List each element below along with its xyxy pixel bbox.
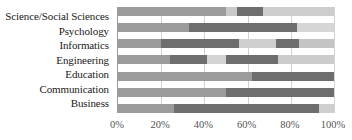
y-axis-label-business: Business: [0, 96, 113, 111]
bar-row[interactable]: [118, 88, 334, 97]
bar-row[interactable]: [118, 72, 334, 81]
y-axis-label-informatics: Informatics: [0, 38, 113, 53]
bar-segment[interactable]: [118, 55, 170, 64]
bar-segment[interactable]: [118, 7, 226, 16]
bar-segment[interactable]: [237, 7, 263, 16]
bar-segment[interactable]: [118, 72, 252, 81]
stacked-bar-chart: Science/Social Sciences Psychology Infor…: [0, 0, 352, 140]
bar-row[interactable]: [118, 7, 334, 16]
y-axis-label-psychology: Psychology: [0, 24, 113, 39]
x-axis-tick-label-100: 100%: [321, 118, 346, 131]
bar-segment[interactable]: [189, 23, 297, 32]
bar-segment[interactable]: [299, 39, 334, 48]
y-axis-label-science-social-sciences: Science/Social Sciences: [0, 9, 113, 24]
bar-segment[interactable]: [118, 23, 189, 32]
bar-row[interactable]: [118, 55, 334, 64]
bar-segment[interactable]: [276, 39, 300, 48]
bar-segment[interactable]: [226, 55, 278, 64]
bar-segment[interactable]: [226, 7, 237, 16]
bar-segment[interactable]: [161, 39, 239, 48]
y-axis-label-communication: Communication: [0, 82, 113, 97]
bar-segment[interactable]: [239, 39, 276, 48]
bar-segment[interactable]: [297, 23, 334, 32]
bar-segment[interactable]: [118, 104, 174, 113]
y-axis-label-engineering: Engineering: [0, 53, 113, 68]
bar-segment[interactable]: [263, 7, 334, 16]
x-axis-tick-label-20: 20%: [151, 118, 170, 131]
x-axis-tick-label-0: 0%: [110, 118, 124, 131]
bar-segment[interactable]: [118, 39, 161, 48]
bar-segment[interactable]: [319, 104, 334, 113]
bar-segment[interactable]: [174, 104, 319, 113]
bar-segment[interactable]: [278, 55, 334, 64]
bar-row[interactable]: [118, 39, 334, 48]
bar-segment[interactable]: [207, 55, 226, 64]
bar-segment[interactable]: [226, 88, 334, 97]
bar-segment[interactable]: [252, 72, 334, 81]
plot-area: [117, 7, 334, 113]
x-axis-tick-label-40: 40%: [194, 118, 213, 131]
bar-segment[interactable]: [170, 55, 207, 64]
y-axis-category-labels: Science/Social Sciences Psychology Infor…: [0, 9, 113, 111]
x-axis-tick-labels: 0%20%40%60%80%100%: [117, 118, 333, 132]
bar-row[interactable]: [118, 23, 334, 32]
x-axis-tick-label-80: 80%: [280, 118, 299, 131]
bar-row[interactable]: [118, 104, 334, 113]
bar-series-container: [118, 7, 334, 113]
y-axis-label-education: Education: [0, 67, 113, 82]
bar-segment[interactable]: [118, 88, 226, 97]
x-axis-tick-label-60: 60%: [237, 118, 256, 131]
gridline-100: [334, 7, 335, 113]
